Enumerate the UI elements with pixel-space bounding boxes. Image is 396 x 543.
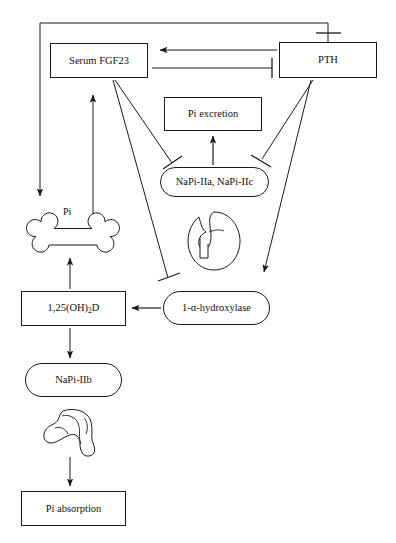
node-label-serum-fgf23: Serum FGF23 xyxy=(69,55,129,67)
bone-icon xyxy=(27,213,120,252)
node-label-vitamin-d: 1,25(OH)2D xyxy=(48,302,100,315)
node-label-napi-iib: NaPi-IIb xyxy=(55,374,92,386)
node-napi-iib[interactable]: NaPi-IIb xyxy=(25,363,122,397)
node-pth[interactable]: PTH xyxy=(279,42,377,78)
label-pi-bone: Pi xyxy=(63,206,71,217)
edge-pth-to-hydroxylase xyxy=(264,80,311,272)
node-serum-fgf23[interactable]: Serum FGF23 xyxy=(50,43,148,78)
connector-layer xyxy=(0,0,396,543)
node-label-napi-iia-iic: NaPi-IIa, NaPi-IIc xyxy=(176,176,254,188)
intestine-icon xyxy=(44,409,95,456)
node-label-pth: PTH xyxy=(318,54,338,66)
node-label-1-alpha-hydroxylase: 1-α-hydroxylase xyxy=(182,302,251,314)
edge-fgf23-inhibits-pth xyxy=(152,58,272,78)
node-napi-iia-iic[interactable]: NaPi-IIa, NaPi-IIc xyxy=(160,167,269,197)
node-pi-absorption[interactable]: Pi absorption xyxy=(21,491,126,526)
node-vitamin-d[interactable]: 1,25(OH)2D xyxy=(21,291,126,326)
node-label-pi-absorption: Pi absorption xyxy=(46,503,102,515)
node-pi-excretion[interactable]: Pi excretion xyxy=(164,97,262,131)
diagram-canvas: Serum FGF23 PTH Pi excretion NaPi-IIa, N… xyxy=(0,0,396,543)
node-label-pi-excretion: Pi excretion xyxy=(188,108,238,120)
node-1-alpha-hydroxylase[interactable]: 1-α-hydroxylase xyxy=(163,291,270,325)
kidney-icon xyxy=(188,212,240,270)
